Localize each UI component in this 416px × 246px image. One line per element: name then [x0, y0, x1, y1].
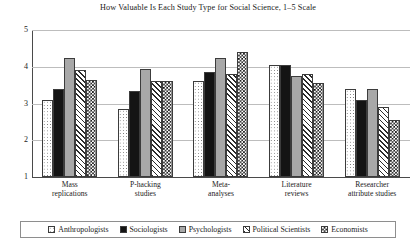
- legend-label: Sociologists: [130, 225, 168, 234]
- chart-title: How Valuable Is Each Study Type for Soci…: [0, 3, 416, 12]
- bar: [42, 100, 53, 177]
- bar-group: [183, 30, 259, 177]
- bar-groups: [32, 30, 410, 177]
- bar: [302, 74, 313, 177]
- bar-group: [32, 30, 108, 177]
- legend-item[interactable]: Anthropologists: [48, 225, 108, 234]
- bar: [378, 107, 389, 177]
- chart-container: How Valuable Is Each Study Type for Soci…: [0, 0, 416, 246]
- x-axis-label: Meta-analyses: [183, 180, 259, 199]
- x-axis-labels: MassreplicationsP-hackingstudiesMeta-ana…: [32, 180, 410, 199]
- legend-item[interactable]: Psychologists: [179, 225, 232, 234]
- bar-group: [108, 30, 184, 177]
- bar: [389, 120, 400, 177]
- legend-item[interactable]: Sociologists: [120, 225, 168, 234]
- bar: [313, 83, 324, 177]
- legend-swatch-icon: [243, 226, 250, 233]
- y-axis-tick-label: 2: [12, 135, 28, 144]
- bar: [193, 81, 204, 177]
- x-axis-label: Literaturereviews: [259, 180, 335, 199]
- bar: [345, 89, 356, 177]
- bar: [162, 81, 173, 177]
- bar: [86, 80, 97, 177]
- y-axis-tick-label: 5: [12, 25, 28, 34]
- bar: [226, 74, 237, 177]
- bar: [140, 69, 151, 177]
- bar: [75, 70, 86, 177]
- x-axis-line: [32, 177, 410, 178]
- x-axis-label: Massreplications: [32, 180, 108, 199]
- bar: [118, 109, 129, 177]
- bar-group: [259, 30, 335, 177]
- bar: [204, 72, 215, 177]
- bar: [151, 81, 162, 177]
- y-axis-tick-label: 1: [12, 172, 28, 181]
- y-axis-tick-label: 4: [12, 62, 28, 71]
- bar: [291, 76, 302, 177]
- y-axis-tick-label: 3: [12, 99, 28, 108]
- bar: [237, 52, 248, 177]
- bar: [356, 100, 367, 177]
- legend-label: Political Scientists: [253, 225, 311, 234]
- bar: [53, 89, 64, 177]
- legend-label: Psychologists: [189, 225, 232, 234]
- legend-item[interactable]: Political Scientists: [243, 225, 311, 234]
- legend-swatch-icon: [179, 226, 186, 233]
- bar: [280, 65, 291, 177]
- plot-area: 12345: [32, 30, 410, 177]
- chart-legend: AnthropologistsSociologistsPsychologists…: [20, 221, 396, 238]
- bar-group: [334, 30, 410, 177]
- legend-swatch-icon: [48, 226, 55, 233]
- legend-swatch-icon: [120, 226, 127, 233]
- x-axis-label: P-hackingstudies: [108, 180, 184, 199]
- legend-swatch-icon: [321, 226, 328, 233]
- bar: [269, 65, 280, 177]
- legend-item[interactable]: Economists: [321, 225, 367, 234]
- x-axis-label: Researcherattribute studies: [334, 180, 410, 199]
- legend-label: Economists: [331, 225, 367, 234]
- bar: [64, 58, 75, 177]
- bar: [215, 58, 226, 177]
- legend-label: Anthropologists: [58, 225, 108, 234]
- bar: [129, 91, 140, 177]
- bar: [367, 89, 378, 177]
